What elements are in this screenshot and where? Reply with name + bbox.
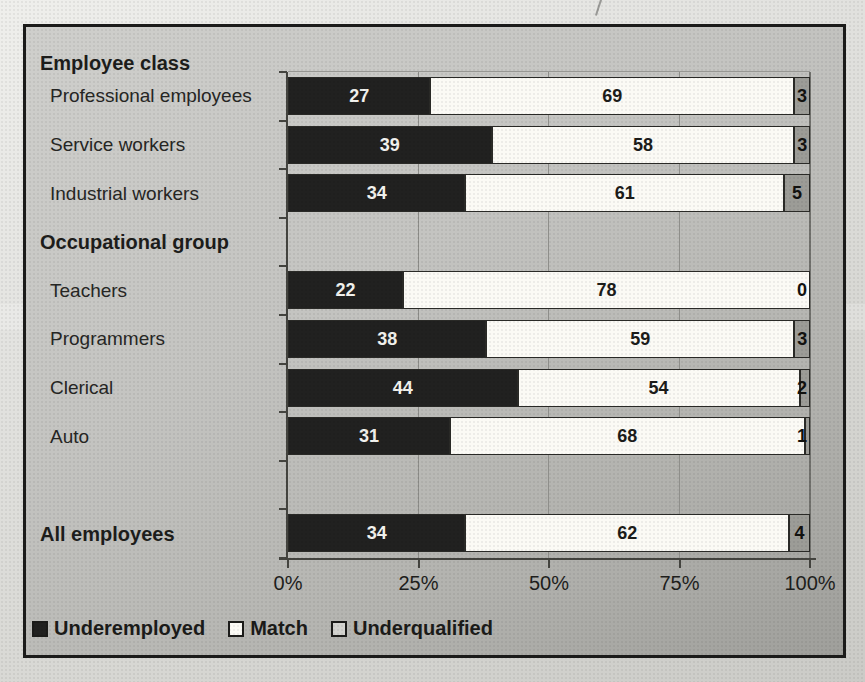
segment-underqualified: 3: [794, 126, 810, 164]
scan-artifact: [595, 0, 603, 16]
value-label: 68: [617, 427, 637, 445]
category-tick: [279, 314, 287, 316]
value-label: 0: [797, 281, 807, 299]
category-tick: [279, 168, 287, 170]
segment-match: 59: [486, 320, 794, 358]
value-label: 38: [377, 330, 397, 348]
category-label-auto: Auto: [50, 426, 89, 448]
segment-underemployed: 44: [288, 369, 518, 407]
category-tick: [279, 120, 287, 122]
legend-item-match: Match: [228, 617, 308, 640]
x-axis-tick: [679, 559, 681, 568]
segment-underqualified: 5: [784, 174, 810, 212]
category-label-industrial-workers: Industrial workers: [50, 183, 199, 205]
value-label: 2: [797, 379, 807, 397]
legend-label: Match: [250, 617, 308, 640]
segment-underqualified: 4: [789, 514, 810, 552]
match-swatch-icon: [228, 621, 244, 637]
segment-underqualified: 3: [794, 77, 810, 115]
value-label: 34: [367, 524, 387, 542]
bar-clerical: 44542: [288, 369, 810, 407]
bar-teachers: 22780: [288, 271, 810, 309]
legend-item-underemployed: Underemployed: [32, 617, 205, 640]
bar-auto: 31681: [288, 417, 810, 455]
x-tick-label-100: 100%: [784, 572, 835, 595]
value-label: 69: [602, 87, 622, 105]
category-tick: [279, 217, 287, 219]
underqualified-swatch-icon: [331, 621, 347, 637]
category-label-service-workers: Service workers: [50, 134, 185, 156]
value-label: 3: [797, 87, 807, 105]
segment-underemployed: 22: [288, 271, 403, 309]
group-header-all-employees: All employees: [40, 522, 175, 545]
segment-match: 62: [465, 514, 789, 552]
group-header-occupational-group: Occupational group: [40, 231, 229, 254]
value-label: 62: [617, 524, 637, 542]
value-label: 39: [380, 136, 400, 154]
segment-underemployed: 34: [288, 174, 465, 212]
value-label: 44: [393, 379, 413, 397]
value-label: 58: [633, 136, 653, 154]
bar-industrial-workers: 34615: [288, 174, 810, 212]
category-tick: [279, 460, 287, 462]
bar-programmers: 38593: [288, 320, 810, 358]
segment-match: 69: [430, 77, 794, 115]
legend: Underemployed Match Underqualified: [32, 617, 493, 640]
value-label: 5: [792, 184, 802, 202]
category-label-programmers: Programmers: [50, 328, 165, 350]
bar-service-workers: 39583: [288, 126, 810, 164]
segment-match: 58: [492, 126, 795, 164]
legend-label: Underemployed: [54, 617, 205, 640]
value-label: 61: [615, 184, 635, 202]
value-label: 54: [649, 379, 669, 397]
category-tick: [279, 557, 287, 559]
underemployed-swatch-icon: [32, 621, 48, 637]
segment-match: 68: [450, 417, 805, 455]
x-tick-label-75: 75%: [659, 572, 699, 595]
segment-underemployed: 34: [288, 514, 465, 552]
segment-match: 54: [518, 369, 800, 407]
x-axis-tick: [809, 559, 811, 568]
x-tick-label-0: 0%: [274, 572, 303, 595]
segment-underqualified: 3: [794, 320, 810, 358]
segment-underemployed: 31: [288, 417, 450, 455]
x-axis-tick: [548, 559, 550, 568]
category-tick: [279, 508, 287, 510]
plot-top-border: [288, 71, 810, 72]
value-label: 3: [797, 136, 807, 154]
scanned-page: 0% 25% 50% 75% 100% Underemployed Match …: [0, 0, 865, 682]
legend-item-underqualified: Underqualified: [331, 617, 493, 640]
category-label-clerical: Clerical: [50, 377, 113, 399]
value-label: 34: [367, 184, 387, 202]
category-label-professional-employees: Professional employees: [50, 85, 252, 107]
segment-match: 78: [403, 271, 810, 309]
value-label: 1: [797, 427, 807, 445]
value-label: 22: [335, 281, 355, 299]
category-tick: [279, 265, 287, 267]
value-label: 31: [359, 427, 379, 445]
category-label-teachers: Teachers: [50, 280, 127, 302]
x-tick-label-50: 50%: [529, 572, 569, 595]
segment-underemployed: 39: [288, 126, 492, 164]
value-label: 3: [797, 330, 807, 348]
x-axis-tick: [287, 559, 289, 568]
bar-professional-employees: 27693: [288, 77, 810, 115]
category-tick: [279, 363, 287, 365]
value-label: 4: [795, 524, 805, 542]
category-tick: [279, 411, 287, 413]
value-label: 27: [349, 87, 369, 105]
legend-label: Underqualified: [353, 617, 493, 640]
category-tick: [279, 71, 287, 73]
x-tick-label-25: 25%: [398, 572, 438, 595]
segment-underemployed: 38: [288, 320, 486, 358]
group-header-employee-class: Employee class: [40, 52, 190, 75]
bar-all-employees: 34624: [288, 514, 810, 552]
segment-underemployed: 27: [288, 77, 430, 115]
segment-match: 61: [465, 174, 783, 212]
value-label: 78: [596, 281, 616, 299]
value-label: 59: [630, 330, 650, 348]
x-axis-tick: [418, 559, 420, 568]
